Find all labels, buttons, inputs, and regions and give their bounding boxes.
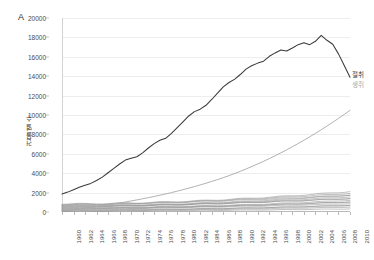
y-tick-label: 18000	[0, 34, 46, 41]
y-tick-mark	[46, 192, 49, 193]
x-tick-mark	[143, 212, 144, 215]
y-tick-label: 8000	[0, 131, 46, 138]
y-tick-mark	[46, 134, 49, 135]
x-tick-mark	[74, 212, 75, 215]
y-tick-mark	[46, 115, 49, 116]
x-tick-label: 1984	[214, 230, 220, 244]
legend: 절취생쥐	[352, 70, 364, 90]
x-tick-label: 2006	[341, 230, 347, 244]
legend-entry: 절취	[352, 70, 364, 80]
x-tick-mark	[258, 212, 259, 215]
y-tick-mark	[46, 18, 49, 19]
x-tick-label: 1974	[156, 230, 162, 244]
y-tick-label: 6000	[0, 150, 46, 157]
x-tick-mark	[338, 212, 339, 215]
x-tick-mark	[315, 212, 316, 215]
x-tick: 2010	[350, 216, 364, 222]
y-tick-mark	[46, 37, 49, 38]
y-tick-label: 12000	[0, 92, 46, 99]
x-tick-mark	[212, 212, 213, 215]
x-tick-mark	[292, 212, 293, 215]
x-tick-label: 1972	[145, 230, 151, 244]
x-tick-label: 1998	[295, 230, 301, 244]
x-tick-label: 1990	[249, 230, 255, 244]
y-tick-mark	[46, 56, 49, 57]
x-tick-mark	[246, 212, 247, 215]
y-tick-mark	[46, 95, 49, 96]
x-tick-mark	[269, 212, 270, 215]
x-tick-label: 1980	[191, 230, 197, 244]
x-tick-label: 1992	[260, 230, 266, 244]
x-tick-mark	[177, 212, 178, 215]
x-tick-label: 1962	[87, 230, 93, 244]
x-tick-mark	[85, 212, 86, 215]
chart-figure: A 건물별 수 02000400060008000100001200014000…	[0, 0, 374, 260]
x-tick-label: 1970	[133, 230, 139, 244]
y-tick-mark	[46, 212, 49, 213]
x-tick-label: 1978	[179, 230, 185, 244]
x-tick-mark	[97, 212, 98, 215]
x-tick-label: 1996	[283, 230, 289, 244]
y-tick-label: 20000	[0, 15, 46, 22]
y-tick-mark	[46, 153, 49, 154]
x-tick-mark	[223, 212, 224, 215]
series-container	[62, 18, 350, 212]
y-tick-mark	[46, 173, 49, 174]
x-tick-mark	[200, 212, 201, 215]
y-tick-mark	[46, 76, 49, 77]
x-tick-mark	[62, 212, 63, 215]
y-tick-label: 0	[0, 209, 46, 216]
x-tick-mark	[120, 212, 121, 215]
x-tick-mark	[131, 212, 132, 215]
plot-area	[62, 18, 350, 212]
y-tick-label: 4000	[0, 170, 46, 177]
series-line	[62, 35, 350, 194]
x-tick-mark	[154, 212, 155, 215]
x-tick-mark	[166, 212, 167, 215]
x-tick-label: 1964	[99, 230, 105, 244]
y-tick-label: 10000	[0, 112, 46, 119]
x-tick-label: 2002	[318, 230, 324, 244]
x-tick-label: 1976	[168, 230, 174, 244]
y-tick-label: 14000	[0, 73, 46, 80]
x-tick-label: 1982	[202, 230, 208, 244]
legend-entry: 생쥐	[352, 80, 364, 90]
x-tick-mark	[108, 212, 109, 215]
y-tick-label: 2000	[0, 189, 46, 196]
y-tick-label: 16000	[0, 53, 46, 60]
x-tick-label: 1988	[237, 230, 243, 244]
x-tick-label: 1966	[110, 230, 116, 244]
x-tick-label: 2010	[364, 230, 370, 244]
x-tick-mark	[327, 212, 328, 215]
x-tick-mark	[304, 212, 305, 215]
x-tick-mark	[189, 212, 190, 215]
x-tick-label: 2000	[306, 230, 312, 244]
x-tick-label: 2004	[329, 230, 335, 244]
x-tick-label: 1960	[76, 230, 82, 244]
x-tick-label: 2008	[352, 230, 358, 244]
x-tick-mark	[235, 212, 236, 215]
x-tick-mark	[350, 212, 351, 215]
x-tick-label: 1994	[272, 230, 278, 244]
x-axis-ticks: 1960196219641966196819701972197419761978…	[62, 212, 350, 260]
x-tick-mark	[281, 212, 282, 215]
x-tick-label: 1968	[122, 230, 128, 244]
series-line	[62, 110, 350, 210]
x-tick-label: 1986	[226, 230, 232, 244]
